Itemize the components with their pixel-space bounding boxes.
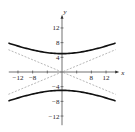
x-arrow-icon bbox=[115, 71, 119, 74]
tick-labels: −12−8812−12−8−44812xy bbox=[12, 8, 125, 121]
axes bbox=[9, 15, 119, 125]
x-tick-label: 12 bbox=[103, 74, 111, 82]
hyperbola-plot: −12−8812−12−8−44812xy bbox=[0, 0, 135, 132]
y-tick-label: −8 bbox=[52, 98, 60, 106]
y-tick-label: 4 bbox=[56, 54, 60, 62]
x-axis-label: x bbox=[120, 69, 125, 77]
x-tick-label: 8 bbox=[90, 74, 94, 82]
y-tick-label: 8 bbox=[56, 39, 60, 47]
y-axis-label: y bbox=[63, 8, 68, 16]
y-tick-label: 12 bbox=[53, 24, 61, 32]
y-tick-label: −4 bbox=[52, 83, 60, 91]
y-tick-label: −12 bbox=[49, 113, 60, 121]
x-tick-label: −12 bbox=[12, 74, 23, 82]
x-tick-label: −8 bbox=[29, 74, 37, 82]
